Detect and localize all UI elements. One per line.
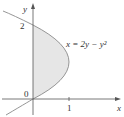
x-axis-label: x <box>116 103 121 113</box>
y-tick-label-2: 2 <box>20 21 25 31</box>
origin-label: 0 <box>24 89 29 99</box>
parabola-diagram: y 2 0 1 x x = 2y − y² <box>0 0 124 117</box>
y-axis-arrow-icon <box>31 3 35 9</box>
x-tick-label-1: 1 <box>67 103 72 113</box>
equation-label: x = 2y − y² <box>65 39 107 49</box>
x-axis-arrow-icon <box>115 97 121 101</box>
y-axis-label: y <box>22 4 27 14</box>
